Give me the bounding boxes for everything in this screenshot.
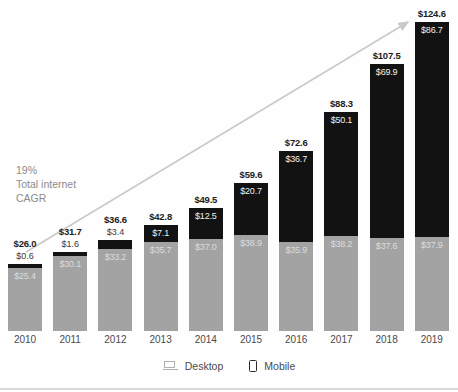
stacked-bar-chart: 19%Total internetCAGR $25.4$0.6$26.0$30.… <box>0 0 458 392</box>
bar-value-mobile-2018: $69.9 <box>370 67 404 78</box>
bar-segment-desktop-2016[interactable]: $35.9 <box>279 242 313 331</box>
bar-group-2018[interactable]: $37.6$69.9$107.5 <box>370 64 404 331</box>
plot-area: 19%Total internetCAGR $25.4$0.6$26.0$30.… <box>0 0 458 331</box>
bar-segment-mobile-2012[interactable] <box>98 240 132 248</box>
legend-item-mobile[interactable]: Mobile <box>249 360 295 372</box>
bar-total-2018: $107.5 <box>363 50 411 61</box>
bar-segment-mobile-2015[interactable]: $20.7 <box>234 183 268 234</box>
bar-group-2013[interactable]: $35.7$7.1$42.8 <box>144 225 178 331</box>
bar-value-desktop-2010: $25.4 <box>8 271 42 282</box>
bar-group-2010[interactable]: $25.4$0.6$26.0 <box>8 267 42 331</box>
bar-segment-mobile-2017[interactable]: $50.1 <box>324 112 358 236</box>
bar-segment-desktop-2015[interactable]: $38.9 <box>234 235 268 331</box>
bar-segment-mobile-2014[interactable]: $12.5 <box>189 208 223 239</box>
bar-value-desktop-2019: $37.9 <box>415 240 449 251</box>
legend-label-mobile: Mobile <box>264 360 295 372</box>
bar-segment-desktop-2018[interactable]: $37.6 <box>370 238 404 331</box>
x-axis-tick-2015: 2015 <box>229 334 273 345</box>
x-axis-tick-2019: 2019 <box>410 334 454 345</box>
x-axis-tick-2014: 2014 <box>184 334 228 345</box>
cagr-line-1: 19% <box>16 164 37 176</box>
x-axis-tick-2013: 2013 <box>139 334 183 345</box>
bar-value-desktop-2013: $35.7 <box>144 245 178 256</box>
bar-value-desktop-2014: $37.0 <box>189 242 223 253</box>
bottom-divider <box>0 388 458 390</box>
bar-total-2014: $49.5 <box>182 194 230 205</box>
bar-segment-mobile-2011[interactable] <box>53 252 87 256</box>
bar-value-desktop-2011: $30.1 <box>53 259 87 270</box>
bar-value-mobile-2015: $20.7 <box>234 186 268 197</box>
bar-segment-desktop-2019[interactable]: $37.9 <box>415 237 449 331</box>
bar-group-2017[interactable]: $38.2$50.1$88.3 <box>324 112 358 331</box>
bar-value-mobile-2010: $0.6 <box>4 251 46 262</box>
legend-label-desktop: Desktop <box>185 360 224 372</box>
bar-total-2011: $31.7 <box>46 226 94 237</box>
bar-total-2015: $59.6 <box>227 169 275 180</box>
phone-icon <box>249 360 257 372</box>
bar-segment-mobile-2013[interactable]: $7.1 <box>144 225 178 243</box>
bar-value-mobile-2011: $1.6 <box>49 239 91 250</box>
bar-segment-desktop-2013[interactable]: $35.7 <box>144 242 178 331</box>
chart-legend: Desktop Mobile <box>0 360 458 372</box>
bar-segment-desktop-2011[interactable]: $30.1 <box>53 256 87 331</box>
bar-total-2012: $36.6 <box>91 214 139 225</box>
bar-segment-desktop-2012[interactable]: $33.2 <box>98 249 132 331</box>
x-axis-tick-2017: 2017 <box>319 334 363 345</box>
x-axis-tick-2018: 2018 <box>365 334 409 345</box>
bar-value-mobile-2019: $86.7 <box>415 25 449 36</box>
bar-value-desktop-2012: $33.2 <box>98 252 132 263</box>
bar-total-2016: $72.6 <box>272 137 320 148</box>
bar-total-2010: $26.0 <box>1 238 49 249</box>
x-axis-tick-2010: 2010 <box>3 334 47 345</box>
bar-segment-mobile-2018[interactable]: $69.9 <box>370 64 404 237</box>
cagr-line-2: Total internet <box>16 178 76 190</box>
bar-group-2011[interactable]: $30.1$1.6$31.7 <box>53 252 87 331</box>
bar-group-2019[interactable]: $37.9$86.7$124.6 <box>415 22 449 331</box>
bar-value-mobile-2016: $36.7 <box>279 154 313 165</box>
x-axis-tick-2016: 2016 <box>274 334 318 345</box>
bar-segment-desktop-2017[interactable]: $38.2 <box>324 236 358 331</box>
bar-segment-desktop-2014[interactable]: $37.0 <box>189 239 223 331</box>
bar-group-2016[interactable]: $35.9$36.7$72.6 <box>279 151 313 331</box>
bar-value-mobile-2012: $3.4 <box>94 227 136 238</box>
bar-segment-desktop-2010[interactable]: $25.4 <box>8 268 42 331</box>
bar-group-2014[interactable]: $37.0$12.5$49.5 <box>189 208 223 331</box>
bar-value-desktop-2016: $35.9 <box>279 245 313 256</box>
bar-total-2013: $42.8 <box>137 211 185 222</box>
bar-group-2015[interactable]: $38.9$20.7$59.6 <box>234 183 268 331</box>
bar-value-mobile-2014: $12.5 <box>189 211 223 222</box>
cagr-line-3: CAGR <box>16 192 46 204</box>
laptop-icon <box>163 361 178 371</box>
bar-value-desktop-2018: $37.6 <box>370 241 404 252</box>
bar-total-2017: $88.3 <box>317 98 365 109</box>
bar-value-mobile-2017: $50.1 <box>324 115 358 126</box>
bar-total-2019: $124.6 <box>408 8 456 19</box>
legend-item-desktop[interactable]: Desktop <box>163 360 224 372</box>
bar-segment-mobile-2019[interactable]: $86.7 <box>415 22 449 237</box>
bar-segment-mobile-2010[interactable] <box>8 264 42 268</box>
x-axis-tick-2012: 2012 <box>93 334 137 345</box>
bar-value-desktop-2015: $38.9 <box>234 238 268 249</box>
cagr-annotation: 19%Total internetCAGR <box>16 163 76 205</box>
bar-value-desktop-2017: $38.2 <box>324 239 358 250</box>
bar-value-mobile-2013: $7.1 <box>144 228 178 239</box>
x-axis-tick-2011: 2011 <box>48 334 92 345</box>
x-axis-tick-labels: 2010201120122013201420152016201720182019 <box>0 334 458 352</box>
bar-segment-mobile-2016[interactable]: $36.7 <box>279 151 313 242</box>
bar-group-2012[interactable]: $33.2$3.4$36.6 <box>98 240 132 331</box>
